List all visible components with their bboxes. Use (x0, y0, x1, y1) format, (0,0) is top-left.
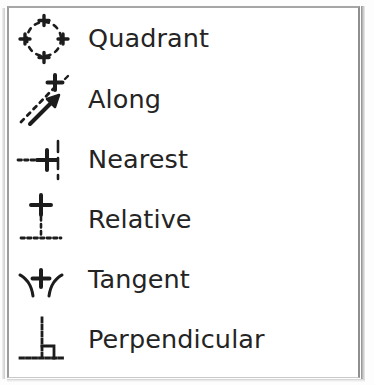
menu-item-nearest[interactable]: Nearest (9, 130, 358, 190)
relative-icon (9, 190, 79, 250)
snap-mode-menu-list: Quadrant Along (9, 8, 358, 376)
nearest-icon (9, 130, 79, 190)
tangent-icon (9, 250, 79, 310)
panel-bottom-shadow (7, 379, 365, 382)
menu-item-relative[interactable]: Relative (9, 190, 358, 250)
quadrant-icon (9, 9, 79, 69)
menu-item-label: Perpendicular (79, 327, 358, 353)
menu-item-label: Along (79, 87, 358, 113)
snap-mode-menu-panel: Quadrant Along (0, 0, 374, 385)
menu-item-label: Tangent (79, 267, 358, 293)
menu-item-label: Quadrant (79, 26, 358, 52)
menu-item-label: Relative (79, 207, 358, 233)
along-icon (9, 70, 79, 130)
menu-item-perpendicular[interactable]: Perpendicular (9, 310, 358, 370)
perpendicular-icon (9, 310, 79, 370)
menu-item-quadrant[interactable]: Quadrant (9, 8, 358, 70)
menu-item-along[interactable]: Along (9, 70, 358, 130)
panel-right-shadow (361, 6, 365, 379)
menu-item-label: Nearest (79, 147, 358, 173)
menu-item-tangent[interactable]: Tangent (9, 250, 358, 310)
panel-left-edge (2, 8, 5, 379)
